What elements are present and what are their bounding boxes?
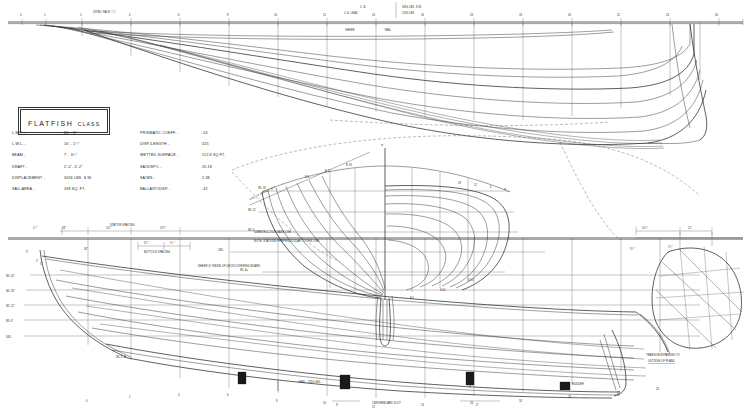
svg-text:20: 20 (568, 13, 572, 17)
svg-text:2: 2 (129, 395, 131, 399)
spec-value: 2.38 (202, 176, 210, 180)
svg-text:1: 1 (44, 13, 46, 17)
spec-row: DRAFT -2'-0", 4'-2" (12, 165, 83, 169)
dim-1: 1½" (33, 226, 38, 230)
wl12-body-label: WL 12 (248, 208, 256, 212)
spec-value: 112.8 SQ.FT. (202, 153, 225, 157)
half-breadth-plan (8, 18, 743, 149)
spec-value: 325 (202, 142, 209, 146)
spec-key: BALLAST/DISP. - (140, 187, 202, 191)
spec-key: BEAM - (12, 153, 64, 157)
sheer-note: SHEER @ INSIDE OF DECK/COVERING BOARD (198, 264, 260, 268)
spec-row: WETTED SURFACE -112.8 SQ.FT. (140, 153, 225, 157)
svg-text:18: 18 (458, 181, 462, 185)
wl24-label: WL 24" (6, 274, 15, 278)
svg-text:18: 18 (470, 13, 474, 17)
transom-detail-grid (656, 246, 744, 350)
dim-9: 10¾" (642, 226, 648, 230)
svg-text:12: 12 (323, 13, 327, 17)
wl18-label: WL 18" (6, 289, 15, 293)
spec-key: L.W.L. - (12, 142, 64, 146)
svg-text:6: 6 (490, 185, 492, 189)
spec-value: .42 (202, 187, 208, 191)
cg-value: 1290 LBS (402, 11, 414, 15)
svg-text:12: 12 (474, 183, 478, 187)
spec-key: DRAFT - (12, 165, 64, 169)
top-station-numbers: 0 1 2 4 6 8 10 12 14 16 18 18 20 22 24 2… (20, 13, 719, 17)
svg-text:12: 12 (372, 405, 376, 409)
svg-text:14: 14 (421, 403, 425, 407)
dim-10: 12" (688, 226, 692, 230)
spec-value: 2'-0", 4'-2" (64, 165, 83, 169)
spec-key: SA/WS - (140, 176, 202, 180)
dim-14: 4" (476, 403, 479, 407)
sheer-label-top: SHEER (345, 28, 354, 32)
base-line-note: NOTE: STATIONS PERPENDICULAR TO THIS LIN… (254, 239, 320, 243)
spec-key: PRISMATIC COEFF. - (140, 131, 202, 135)
spec-value: 3094 LBS. S.W. (64, 176, 92, 180)
svg-text:26: 26 (715, 13, 719, 17)
spec-value: 7' - 6½" (64, 153, 78, 157)
cb-value: 3094 LBS. S.W. (402, 5, 422, 9)
stem-dim: 5" (40, 262, 43, 266)
transom-note-1: TRANSOM EXPANDED TO (646, 353, 680, 357)
svg-text:22: 22 (617, 13, 621, 17)
svg-text:14: 14 (372, 13, 376, 17)
svg-text:0: 0 (86, 399, 88, 403)
transom-expansion-detail (636, 232, 744, 350)
spec-row: DISPLACEMENT -3094 LBS. S.W. (12, 176, 92, 180)
profile-plan (8, 238, 743, 398)
dim-12: 1¼" (668, 245, 673, 249)
spec-key: SA/DISP⅔ - (140, 165, 202, 169)
dim-5: 5¼" (144, 241, 149, 245)
profile-waterlines (24, 275, 700, 336)
cb-label: C. B. (360, 5, 366, 9)
dim-11: 3¾" (630, 247, 635, 251)
body-plan-labels: ℼ WL 18 WL 12 WL 6 LWL WL 6a 6.50 6.00 8… (218, 144, 507, 300)
spec-key: DISP./LENGTH - (140, 142, 202, 146)
wl6a-body-label: WL 6a (240, 268, 248, 272)
spec-row: PRISMATIC COEFF. -.54 (140, 131, 208, 135)
svg-text:ℼ: ℼ (381, 144, 384, 147)
profile-station-lines (88, 238, 660, 398)
svg-text:22: 22 (617, 391, 621, 395)
buttock-spacing-label: BUTTOCK SPACING (144, 250, 170, 254)
body-plan-buttocks (330, 168, 468, 292)
svg-text:B 12: B 12 (325, 169, 331, 173)
spec-value: 16' - 1½" (64, 142, 80, 146)
svg-text:24: 24 (666, 13, 670, 17)
transom-note-2: OUTSIDE OF PLANK (648, 359, 675, 363)
spec-row: SAIL AREA -268 SQ. FT. (12, 187, 85, 191)
construction-base-line-label: CONSTRUCTION BASE LINE (254, 230, 291, 234)
svg-text:6: 6 (178, 13, 180, 17)
spec-row: SA/WS -2.38 (140, 176, 210, 180)
spec-key: L.B.P. - (12, 131, 64, 135)
cg-label: C.G. LEAD (344, 11, 358, 15)
spec-key: SAIL AREA - (12, 187, 64, 191)
offset-80: 8.0 (410, 296, 414, 300)
svg-text:4: 4 (178, 393, 180, 397)
naval-lines-plan-drawing: 0 1 2 4 6 8 10 12 14 16 18 18 20 22 24 2… (0, 0, 751, 414)
dim-4: 15¼" (160, 226, 166, 230)
svg-text:B 6: B 6 (305, 175, 310, 179)
svg-text:20: 20 (568, 395, 572, 399)
spec-value: 268 SQ. FT. (64, 187, 85, 191)
dim-15: 5" (36, 259, 39, 263)
station-spacing-label: STATION SPACING (110, 223, 135, 227)
svg-text:10: 10 (274, 13, 278, 17)
rudder-label: RUDDER (572, 382, 584, 386)
svg-text:B 18: B 18 (346, 163, 352, 167)
svg-text:8: 8 (227, 13, 229, 17)
spec-row: BALLAST/DISP. -.42 (140, 187, 208, 191)
dim-7: 30" (84, 247, 88, 251)
spec-value: 20' - 3" (64, 131, 77, 135)
lines-plan-sheet: 0 1 2 4 6 8 10 12 14 16 18 18 20 22 24 2… (0, 0, 751, 414)
spec-key: DISPLACEMENT - (12, 176, 64, 180)
spec-row: L.W.L. -16' - 1½" (12, 142, 80, 146)
dim-2: 18" (62, 226, 66, 230)
lwl-label: LWL (6, 335, 12, 339)
transom-detail-diagonals (656, 250, 742, 348)
svg-text:16: 16 (421, 13, 425, 17)
spec-row: BEAM -7' - 6½" (12, 153, 78, 157)
lwl-body-label: LWL (218, 248, 224, 252)
